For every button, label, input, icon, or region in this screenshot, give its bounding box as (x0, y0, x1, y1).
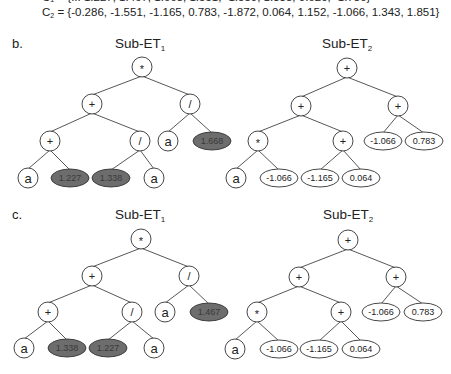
operator-node: + (338, 230, 358, 250)
node-label: -1.066 (370, 136, 396, 146)
operator-node: / (130, 131, 150, 151)
node-label: a (150, 341, 158, 356)
tree-edge (165, 285, 189, 303)
node-label: 1.668 (201, 136, 224, 146)
node-label: 0.783 (412, 307, 435, 317)
operator-node: + (38, 302, 58, 322)
tree-edge (383, 115, 398, 133)
operator-node: + (386, 267, 406, 287)
tree-edge (50, 113, 92, 132)
tree-edge (398, 115, 424, 133)
operator-node: + (82, 266, 102, 286)
node-label: + (298, 100, 304, 112)
node-label: + (393, 271, 399, 283)
node-label: a (20, 341, 28, 356)
tree-edge (108, 321, 132, 340)
tree-edge (111, 150, 140, 170)
tree-edge (235, 321, 257, 340)
tree-edge (190, 113, 212, 133)
operator-node: + (333, 131, 353, 151)
tree-edge (24, 321, 48, 339)
expression-tree-diagram: b.Sub-ET1*+/+/a1.668a1.2271.338aSub-ET2+… (0, 0, 451, 374)
node-label: + (45, 306, 51, 318)
node-label: -1.066 (368, 307, 394, 317)
node-label: + (89, 270, 95, 282)
tree-edge (396, 286, 423, 304)
tree-edge (132, 321, 154, 339)
tree-edge (381, 286, 396, 304)
tree-edge (320, 150, 343, 170)
node-label: 0.783 (413, 136, 436, 146)
node-label: + (340, 135, 346, 147)
variable-node: a (14, 338, 34, 358)
crossover-constant-node: 1.668 (193, 132, 231, 150)
operator-node: * (132, 57, 152, 77)
node-label: a (232, 171, 240, 186)
tree-edge (28, 150, 50, 169)
panel-b: b.Sub-ET1*+/+/a1.668a1.2271.338aSub-ET2+… (12, 36, 443, 188)
tree-edge (347, 77, 398, 97)
constant-node: 0.064 (342, 169, 380, 187)
node-label: 1.227 (59, 173, 82, 183)
node-label: a (24, 171, 32, 186)
sub-expression-tree-2: Sub-ET2+++*+-1.0660.783a-1.066-1.1650.06… (226, 36, 443, 188)
crossover-constant-node: 1.227 (89, 339, 127, 357)
operator-node: / (179, 266, 199, 286)
tree-edge (140, 150, 154, 169)
variable-node: a (144, 338, 164, 358)
tree-edge (168, 113, 190, 132)
constant-node: 0.783 (405, 132, 443, 150)
tree-edge (141, 248, 189, 267)
constant-node: 0.783 (404, 303, 442, 321)
node-label: 1.338 (100, 173, 123, 183)
tree-edge (50, 150, 70, 170)
tree-title: Sub-ET2 (322, 36, 373, 53)
variable-node: a (144, 168, 164, 188)
operator-node: + (40, 131, 60, 151)
node-label: a (231, 342, 239, 357)
operator-node: + (337, 58, 357, 78)
tree-edge (319, 321, 341, 341)
constant-node: -1.165 (301, 169, 339, 187)
node-label: a (164, 134, 172, 149)
tree-edge (258, 150, 279, 170)
operator-node: * (247, 302, 267, 322)
node-label: * (255, 308, 260, 320)
panel-label: c. (12, 207, 22, 222)
crossover-constant-node: 1.467 (190, 303, 228, 321)
node-label: + (296, 271, 302, 283)
node-label: 1.227 (97, 343, 120, 353)
tree-edge (258, 115, 301, 132)
node-label: 0.064 (350, 173, 373, 183)
tree-edge (189, 285, 209, 304)
node-label: 1.338 (56, 343, 79, 353)
node-label: -1.165 (306, 344, 332, 354)
tree-edge (92, 248, 141, 267)
tree-edge (48, 321, 67, 340)
variable-node: a (155, 302, 175, 322)
tree-edge (301, 77, 347, 97)
operator-node: / (122, 302, 142, 322)
tree-title: Sub-ET2 (323, 207, 374, 224)
sub-expression-tree-1: Sub-ET1*+/+/a1.668a1.2271.338a (18, 36, 231, 188)
crossover-constant-node: 1.338 (48, 339, 86, 357)
tree-title: Sub-ET1 (115, 207, 166, 224)
node-label: + (344, 62, 350, 74)
operator-node: * (248, 131, 268, 151)
constant-node: -1.066 (362, 303, 400, 321)
node-label: -1.066 (266, 344, 292, 354)
tree-edge (299, 286, 341, 303)
tree-edge (299, 249, 348, 268)
operator-node: + (291, 96, 311, 116)
variable-node: a (158, 131, 178, 151)
tree-edge (92, 113, 140, 132)
node-label: + (89, 98, 95, 110)
node-label: -1.066 (266, 173, 292, 183)
constant-node: -1.066 (260, 169, 298, 187)
tree-edge (348, 249, 396, 268)
tree-edge (341, 321, 361, 341)
operator-node: + (82, 94, 102, 114)
tree-edge (92, 285, 132, 303)
constant-node: -1.165 (300, 340, 338, 358)
tree-edge (343, 150, 361, 170)
